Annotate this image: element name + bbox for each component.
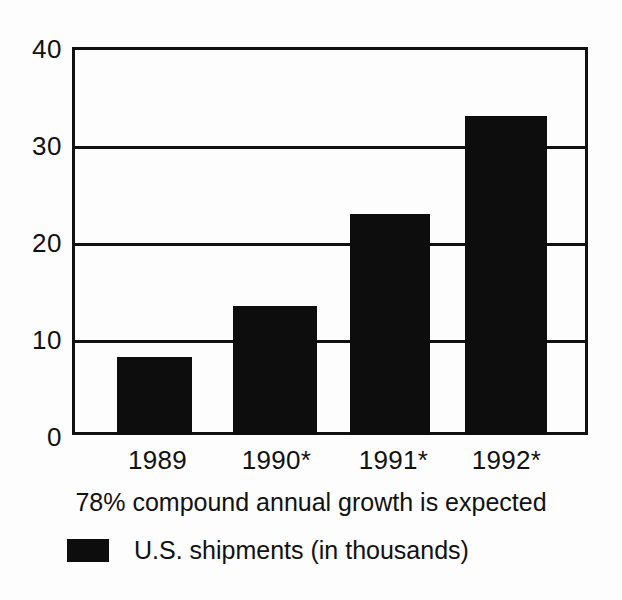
y-tick-label-0: 0 — [47, 424, 62, 450]
legend-label-us-shipments: U.S. shipments (in thousands) — [134, 536, 469, 564]
y-tick-label-40: 40 — [32, 36, 62, 62]
y-tick-label-10: 10 — [32, 327, 62, 353]
chart-annotation: 78% compound annual growth is expected — [0, 487, 622, 517]
x-tick-label-1990: 1990* — [214, 446, 339, 474]
x-tick-label-1989: 1989 — [95, 446, 220, 474]
bar-1992 — [465, 116, 547, 435]
x-tick-label-1991: 1991* — [331, 446, 456, 474]
y-tick-label-30: 30 — [32, 133, 62, 159]
x-tick-label-1992: 1992* — [444, 446, 569, 474]
y-tick-label-20: 20 — [32, 230, 62, 256]
bar-1990 — [233, 306, 317, 435]
legend-swatch-us-shipments — [67, 539, 109, 562]
bar-1991 — [350, 214, 430, 435]
bars-layer — [72, 47, 588, 435]
bar-1989 — [117, 357, 192, 435]
bar-chart-figure: 40 30 20 10 0 1989 1990* 1991* 1992* 78%… — [0, 0, 622, 600]
chart-legend: U.S. shipments (in thousands) — [67, 536, 469, 564]
